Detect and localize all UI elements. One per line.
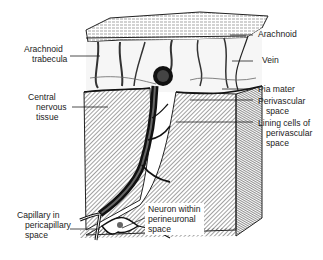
label-central-nervous-tissue: Central nervous tissue xyxy=(28,92,67,122)
label-perivascular-space: Perivascular space xyxy=(258,96,305,116)
label-capillary: Capillary in pericapillary space xyxy=(17,210,71,240)
meninges-diagram: Arachnoid trabecula Central nervous tiss… xyxy=(0,0,323,260)
arachnoid-layer xyxy=(86,12,268,42)
label-vein: Vein xyxy=(262,55,279,65)
label-neuron: Neuron within perineuronal space xyxy=(145,203,204,235)
label-arachnoid: Arachnoid xyxy=(258,29,297,39)
label-lining-cells: Lining cells of perivascular space xyxy=(258,118,312,148)
label-arachnoid-trabecula: Arachnoid trabecula xyxy=(24,44,67,64)
label-pia-mater: Pia mater xyxy=(258,84,295,94)
